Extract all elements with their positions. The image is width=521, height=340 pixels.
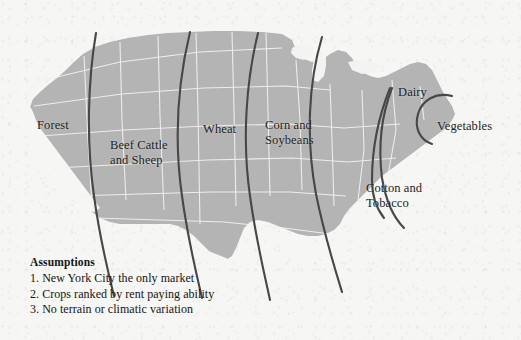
map-label-corn-and-soybeans: Corn and Soybeans	[265, 118, 314, 147]
assumption-item-2: 2. Crops ranked by rent paying ability	[30, 287, 214, 303]
map-label-dairy: Dairy	[398, 85, 427, 100]
assumption-item-3: 3. No terrain or climatic variation	[30, 302, 214, 318]
assumptions-legend: Assumptions 1. New York City the only ma…	[30, 256, 214, 318]
map-label-forest: Forest	[37, 118, 69, 133]
assumptions-title: Assumptions	[30, 256, 214, 268]
map-label-cotton-and-tobacco: Cotton and Tobacco	[366, 181, 422, 210]
assumption-item-1: 1. New York City the only market	[30, 271, 214, 287]
von-thunen-us-agriculture-map: Forest Beef Cattle and Sheep Wheat Corn …	[0, 0, 521, 340]
map-label-beef-cattle-and-sheep: Beef Cattle and Sheep	[110, 138, 168, 167]
map-label-wheat: Wheat	[203, 122, 236, 137]
map-label-vegetables: Vegetables	[437, 119, 492, 134]
us-outline	[30, 31, 455, 260]
puget-sound-notch	[52, 56, 66, 66]
